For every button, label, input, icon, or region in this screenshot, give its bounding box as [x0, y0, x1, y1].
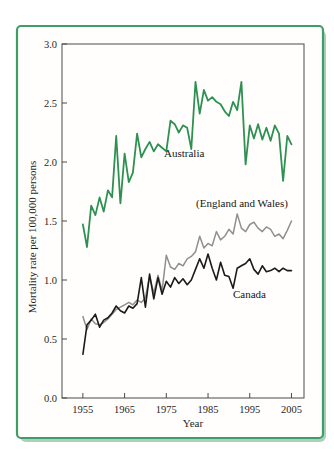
y-tick-label: 2.5 [44, 98, 57, 109]
figure-card-stage: 0.00.51.01.52.02.53.01955196519751985199… [0, 0, 334, 469]
x-tick-label: 1955 [72, 404, 93, 415]
x-tick-label: 1975 [156, 404, 177, 415]
x-tick-label: 1995 [239, 404, 260, 415]
series-label-england-and-wales: (England and Wales) [196, 197, 288, 210]
series-label-canada: Canada [233, 288, 266, 300]
y-axis-title: Mortality rate per 100,000 persons [26, 161, 38, 313]
x-axis-title: Year [183, 417, 204, 429]
card-frame [17, 26, 323, 438]
y-tick-label: 0.0 [44, 393, 57, 404]
y-tick-label: 1.5 [44, 216, 57, 227]
mortality-line-chart: 0.00.51.01.52.02.53.01955196519751985199… [0, 0, 334, 469]
y-tick-label: 1.0 [44, 275, 57, 286]
y-tick-label: 3.0 [44, 39, 57, 50]
y-tick-label: 0.5 [44, 334, 57, 345]
y-tick-label: 2.0 [44, 157, 57, 168]
x-tick-label: 1985 [198, 404, 219, 415]
x-tick-label: 2005 [281, 404, 302, 415]
x-tick-label: 1965 [114, 404, 135, 415]
series-label-australia: Australia [164, 147, 204, 159]
